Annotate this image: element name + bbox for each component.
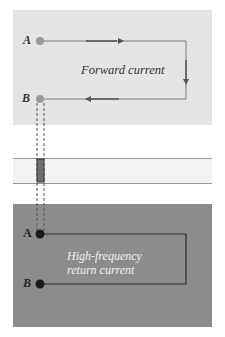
- top-node-b-label: B: [22, 91, 30, 106]
- arrow-left-icon: [85, 96, 91, 102]
- forward-current-caption: Forward current: [81, 63, 164, 78]
- bottom-node-b: [36, 280, 45, 289]
- bottom-node-a: [36, 230, 45, 239]
- top-node-a-label: A: [23, 33, 31, 48]
- bottom-node-b-label: B: [23, 276, 31, 291]
- arrow-down-icon: [183, 79, 189, 85]
- trace-cross-section: [37, 159, 44, 182]
- return-current-caption-line1: High-frequency: [67, 249, 142, 264]
- top-node-b: [36, 95, 44, 103]
- arrow-right-icon: [118, 38, 124, 44]
- return-current-caption-line2: return current: [67, 263, 134, 278]
- bottom-node-a-label: A: [23, 226, 32, 241]
- top-node-a: [36, 37, 44, 45]
- circuit-diagram: [0, 0, 225, 337]
